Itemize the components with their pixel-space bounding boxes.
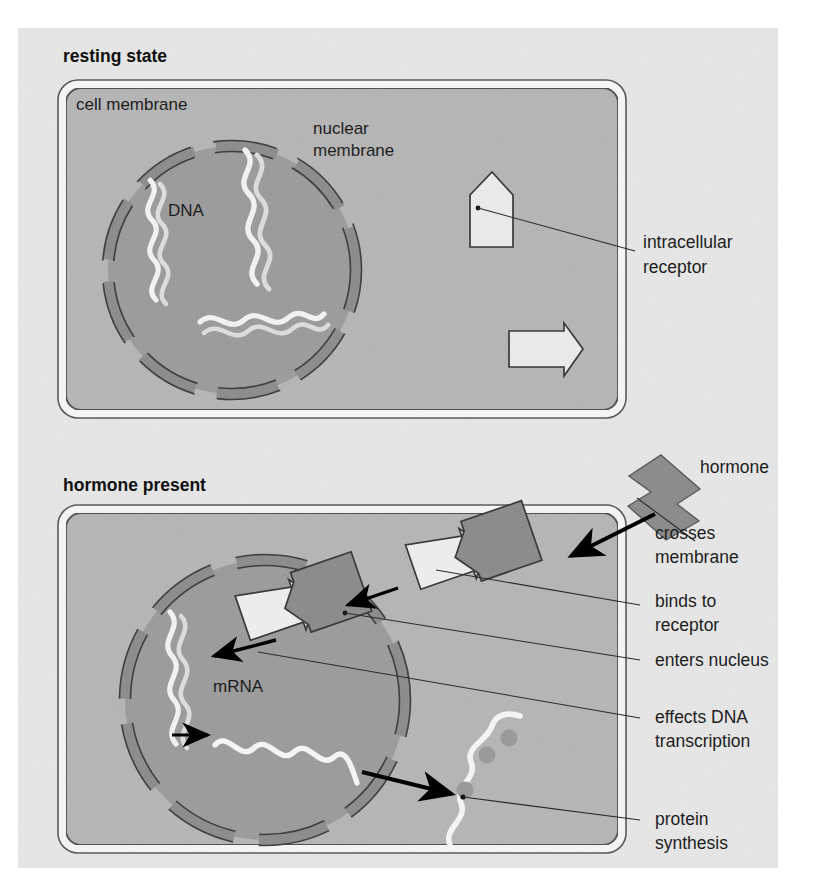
hormone-receptor-diagram: resting state cell membrane nuclear memb… (0, 0, 831, 895)
label-hormone: hormone (700, 457, 769, 477)
caption-hormone-present: hormone present (63, 475, 206, 495)
label-mrna: mRNA (213, 677, 264, 696)
label-intracellular-receptor-line2: receptor (643, 257, 707, 277)
label-enters-nucleus: enters nucleus (655, 650, 769, 670)
nucleus-resting (103, 141, 362, 400)
label-protein-synthesis-line2: synthesis (655, 833, 728, 853)
label-protein-synthesis-line1: protein (655, 809, 709, 829)
label-crosses-membrane-line1: crosses (655, 523, 716, 543)
label-nuclear-membrane-line2: membrane (313, 141, 394, 160)
label-effects-dna-line2: transcription (655, 731, 750, 751)
ribosome (479, 747, 496, 764)
label-binds-to-receptor-line1: binds to (655, 591, 716, 611)
label-nuclear-membrane-line1: nuclear (313, 119, 369, 138)
ribosome (501, 730, 518, 747)
figure-root: resting state cell membrane nuclear memb… (0, 0, 831, 895)
label-effects-dna-line1: effects DNA (655, 707, 748, 727)
label-binds-to-receptor-line2: receptor (655, 615, 719, 635)
label-crosses-membrane-line2: membrane (655, 547, 739, 567)
label-dna: DNA (168, 201, 205, 220)
label-cell-membrane: cell membrane (76, 95, 188, 114)
caption-resting-state: resting state (63, 46, 167, 66)
label-intracellular-receptor-line1: intracellular (643, 232, 733, 252)
